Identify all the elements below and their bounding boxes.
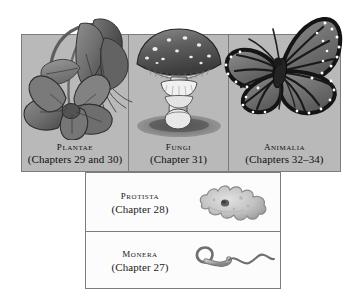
caption-animalia: Animalia (Chapters 32–34) <box>229 139 340 166</box>
top-row-panels: Plantae (Chapters 29 and 30) <box>21 34 341 172</box>
columbine-flower-illustration <box>16 14 138 140</box>
chapter-ref-protista: (Chapter 28) <box>90 203 190 216</box>
bottom-block-panels: Protista (Chapter 28) <box>85 172 281 289</box>
kingdom-name-animalia: Animalia <box>229 139 340 153</box>
five-kingdoms-figure: Plantae (Chapters 29 and 30) <box>0 0 364 301</box>
caption-protista: Protista (Chapter 28) <box>86 188 190 215</box>
chapter-ref-monera: (Chapter 27) <box>90 261 190 274</box>
caption-plantae: Plantae (Chapters 29 and 30) <box>22 139 128 166</box>
caption-fungi: Fungi (Chapter 31) <box>129 139 228 166</box>
kingdom-panel-plantae[interactable]: Plantae (Chapters 29 and 30) <box>22 35 129 171</box>
kingdom-name-plantae: Plantae <box>22 139 128 153</box>
kingdom-panel-protista[interactable]: Protista (Chapter 28) <box>86 173 280 232</box>
kingdom-panel-animalia[interactable]: Animalia (Chapters 32–34) <box>229 35 340 171</box>
chapter-ref-fungi: (Chapter 31) <box>129 153 228 166</box>
flagellated-bacterium-illustration <box>192 244 276 278</box>
chapter-ref-animalia: (Chapters 32–34) <box>229 153 340 166</box>
kingdom-name-fungi: Fungi <box>129 139 228 153</box>
caption-monera: Monera (Chapter 27) <box>86 246 190 273</box>
kingdom-name-protista: Protista <box>90 188 190 203</box>
kingdom-name-monera: Monera <box>90 246 190 261</box>
amoeba-illustration <box>196 182 270 224</box>
monera-art-area <box>190 232 280 288</box>
kingdom-panel-monera[interactable]: Monera (Chapter 27) <box>86 232 280 288</box>
monarch-butterfly-illustration <box>213 17 349 129</box>
protista-art-area <box>190 173 280 231</box>
chapter-ref-plantae: (Chapters 29 and 30) <box>22 153 128 166</box>
